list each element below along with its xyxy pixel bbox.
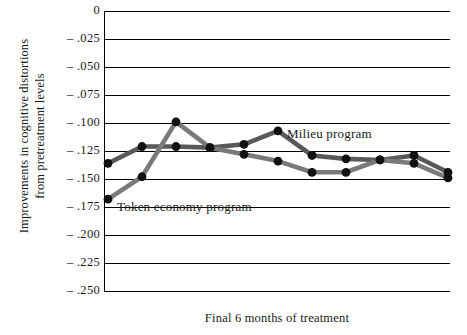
data-point-marker bbox=[206, 143, 215, 152]
y-axis-tick-label: – .025 bbox=[28, 32, 100, 44]
data-point-marker bbox=[240, 140, 249, 149]
series-label-token-economy: Token economy program bbox=[117, 199, 252, 215]
x-axis-title: Final 6 months of treatment bbox=[104, 311, 450, 326]
data-point-marker bbox=[274, 157, 283, 166]
y-axis-tick-label: – .050 bbox=[28, 60, 100, 72]
y-axis-tick-label: – .250 bbox=[28, 284, 100, 296]
y-axis-tick-labels: 0– .025– .050– .075– .100– .125– .150– .… bbox=[28, 0, 100, 335]
data-point-marker bbox=[444, 173, 453, 182]
data-point-marker bbox=[138, 142, 147, 151]
series-label-milieu: Milieu program bbox=[287, 126, 372, 142]
y-axis-tick-label: – .150 bbox=[28, 172, 100, 184]
chart-figure: Improvements in cognitive distortions fr… bbox=[0, 0, 467, 335]
data-point-marker bbox=[138, 172, 147, 181]
data-point-marker bbox=[274, 126, 283, 135]
series-lines-and-markers bbox=[104, 11, 450, 291]
y-axis-tick-label: 0 bbox=[28, 4, 100, 16]
data-point-marker bbox=[240, 150, 249, 159]
data-point-marker bbox=[104, 195, 113, 204]
data-point-marker bbox=[376, 156, 385, 165]
data-point-marker bbox=[308, 168, 317, 177]
plot-area bbox=[104, 11, 450, 291]
y-axis-tick-label: – .225 bbox=[28, 256, 100, 268]
data-point-marker bbox=[410, 159, 419, 168]
y-axis-tick-label: – .075 bbox=[28, 88, 100, 100]
data-point-marker bbox=[342, 154, 351, 163]
data-point-marker bbox=[342, 168, 351, 177]
data-point-marker bbox=[104, 159, 113, 168]
data-point-marker bbox=[410, 151, 419, 160]
data-point-marker bbox=[172, 117, 181, 126]
y-axis-tick-label: – .175 bbox=[28, 200, 100, 212]
y-axis-tick-label: – .200 bbox=[28, 228, 100, 240]
data-point-marker bbox=[172, 142, 181, 151]
y-axis-tick-label: – .100 bbox=[28, 116, 100, 128]
data-point-marker bbox=[308, 151, 317, 160]
gridline bbox=[104, 291, 450, 292]
y-axis-tick-label: – .125 bbox=[28, 144, 100, 156]
